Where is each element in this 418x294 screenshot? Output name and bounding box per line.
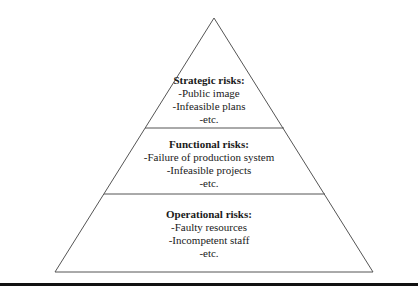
bottom-rule [0,283,418,286]
tier-item: -etc. [0,177,418,190]
tier-item: -Infeasible plans [0,100,418,113]
tier-item: -Public image [0,87,418,100]
tier-heading: Operational risks: [0,208,418,221]
tier-item: -Faulty resources [0,221,418,234]
tier-item: -etc. [0,247,418,260]
tier-heading: Functional risks: [0,138,418,151]
tier-item: -etc. [0,113,418,126]
tier-heading: Strategic risks: [0,74,418,87]
tier-strategic: Strategic risks: -Public image -Infeasib… [0,74,418,126]
tier-item: -Infeasible projects [0,164,418,177]
tier-item: -Failure of production system [0,151,418,164]
tier-operational: Operational risks: -Faulty resources -In… [0,208,418,260]
tier-item: -Incompetent staff [0,234,418,247]
tier-functional: Functional risks: -Failure of production… [0,138,418,190]
